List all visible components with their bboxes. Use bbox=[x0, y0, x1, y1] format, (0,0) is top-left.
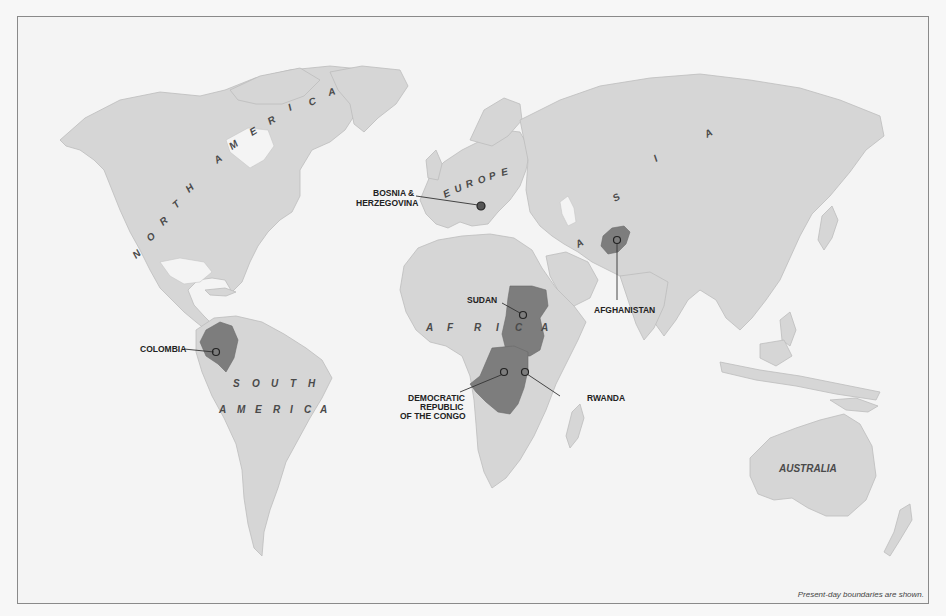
landmass-new-guinea bbox=[830, 398, 878, 412]
svg-text:A: A bbox=[425, 322, 433, 333]
svg-text:S: S bbox=[233, 378, 240, 389]
svg-text:U: U bbox=[271, 378, 279, 389]
svg-text:T: T bbox=[290, 378, 297, 389]
svg-text:R: R bbox=[474, 322, 482, 333]
label-rwanda: RWANDA bbox=[587, 393, 625, 403]
label-colombia: COLOMBIA bbox=[140, 344, 186, 354]
label-afghanistan: AFGHANISTAN bbox=[594, 305, 655, 315]
svg-text:R: R bbox=[273, 404, 281, 415]
footnote: Present-day boundaries are shown. bbox=[798, 590, 924, 599]
svg-text:F: F bbox=[447, 322, 454, 333]
label-sudan: SUDAN bbox=[467, 295, 497, 305]
landmass-new-zealand bbox=[884, 504, 912, 556]
landmass-indonesia bbox=[720, 362, 880, 400]
label-drc-line3: OF THE CONGO bbox=[400, 411, 466, 421]
label-australia: AUSTRALIA bbox=[778, 463, 837, 474]
svg-text:C: C bbox=[304, 404, 312, 415]
world-map: N O R T H A M E R I C A S O U T H A M E … bbox=[0, 0, 946, 616]
svg-text:C: C bbox=[515, 322, 523, 333]
svg-text:H: H bbox=[308, 378, 316, 389]
svg-text:A: A bbox=[218, 404, 226, 415]
label-bosnia-line2: HERZEGOVINA bbox=[356, 198, 418, 208]
svg-text:O: O bbox=[252, 378, 260, 389]
svg-text:A: A bbox=[540, 322, 548, 333]
label-bosnia-line1: BOSNIA & bbox=[373, 188, 414, 198]
country-bosnia-herzegovina bbox=[477, 202, 485, 210]
svg-text:E: E bbox=[255, 404, 262, 415]
landmass-japan bbox=[818, 206, 838, 250]
svg-text:I: I bbox=[496, 322, 499, 333]
landmass-madagascar bbox=[566, 404, 584, 448]
svg-text:A: A bbox=[319, 404, 327, 415]
svg-text:M: M bbox=[237, 404, 246, 415]
svg-text:I: I bbox=[290, 404, 293, 415]
